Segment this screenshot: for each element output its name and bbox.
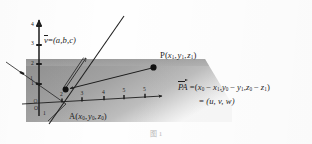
x-axis-tick-3: 3 xyxy=(81,91,84,97)
point-A-comma-2: , xyxy=(95,111,97,121)
x-axis-tick-4: 4 xyxy=(102,90,105,96)
point-P-marker xyxy=(150,64,156,70)
PA-z1-sub: 1 xyxy=(264,86,267,92)
vector-PA-equals: = xyxy=(190,82,195,92)
point-A-comma-1: , xyxy=(85,111,87,121)
origin-label-shadow: O xyxy=(34,99,38,105)
x-axis-tick-5: 5 xyxy=(123,88,126,94)
vector-PA-uvw: (u, v, w) xyxy=(206,96,234,106)
figure-caption: 图 1 xyxy=(0,128,312,138)
z-axis-tick-3: 3 xyxy=(31,41,34,47)
PA-minus-2: − xyxy=(230,82,235,92)
z-axis-tick-4: 4 xyxy=(31,22,34,28)
vector-v-components: (a,b,c) xyxy=(53,35,76,45)
x-axis-tick-6: 5 xyxy=(143,87,146,93)
y-axis-tick-1: 1 xyxy=(30,76,33,82)
vector-PA-symbol: PA xyxy=(178,83,188,92)
z-axis-tick-2: 2 xyxy=(31,61,34,67)
x-axis-tick-2: 2 xyxy=(60,92,63,98)
vector-PA-equation-line2: = (u, v, w) xyxy=(199,97,235,106)
diagram-canvas xyxy=(0,0,312,144)
point-A-marker xyxy=(63,86,69,92)
PA-x0-sub: 0 xyxy=(202,86,205,92)
PA-y0-sub: 0 xyxy=(226,86,229,92)
PA-minus-1: − xyxy=(206,82,211,92)
point-P-head: P( xyxy=(160,50,168,60)
PA-z0-sub: 0 xyxy=(249,86,252,92)
point-A-head: A( xyxy=(69,111,78,121)
vector-v-symbol: v xyxy=(44,36,48,45)
point-P-comma-1: , xyxy=(174,50,176,60)
point-A-label: A(x0, y0, z0) xyxy=(69,112,107,122)
PA-minus-3: − xyxy=(254,82,259,92)
point-P-tail: ) xyxy=(193,50,196,60)
point-P-label: P(x1, y1, z1) xyxy=(160,51,196,61)
point-A-tail: ) xyxy=(104,111,107,121)
origin-label: O xyxy=(34,106,38,112)
vector-PA-equation-line1: PA =P((x0 − x1,y0 − y1,z0 − z1) xyxy=(178,83,270,93)
vector-PA-equals-2: = xyxy=(199,96,204,106)
y-axis-tick-2: 1 xyxy=(43,111,46,117)
vector-v-label: v=(a,b,c) xyxy=(44,36,76,45)
figure-page: 4 3 2 1 O O 2 3 4 5 5 1 1 v=(a,b,c) P(x1… xyxy=(0,0,312,144)
